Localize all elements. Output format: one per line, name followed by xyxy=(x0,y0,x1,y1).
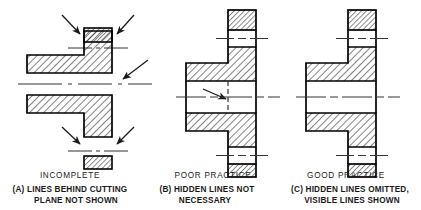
panel-c-flange-top-block xyxy=(348,10,376,30)
panel-c-caption-line-2: VISIBLE LINES SHOWN xyxy=(304,196,400,205)
panel-c-caption-line-1: (C) HIDDEN LINES OMITTED, xyxy=(291,185,409,194)
panel-a-caption-line-2: PLANE NOT SHOWN xyxy=(34,196,118,205)
panel-a-caption-line-1: (A) LINES BEHIND CUTTING xyxy=(13,185,128,194)
panel-b-caption-line-1: (B) HIDDEN LINES NOT xyxy=(160,185,255,194)
figure-root: INCOMPLETE (A) LINES BEHIND CUTTING PLAN… xyxy=(0,0,421,210)
panel-c-verdict: GOOD PRACTICE xyxy=(307,171,385,180)
panel-b-caption-line-2: NECESSARY xyxy=(179,196,232,205)
panel-b-flange-top-block xyxy=(228,10,256,30)
panel-a-bottom-bolt-pad xyxy=(84,156,112,169)
panel-b-verdict: POOR PRACTICE xyxy=(175,171,252,180)
panel-a-verdict: INCOMPLETE xyxy=(40,171,100,180)
technical-drawing-canvas: INCOMPLETE (A) LINES BEHIND CUTTING PLAN… xyxy=(0,0,421,210)
